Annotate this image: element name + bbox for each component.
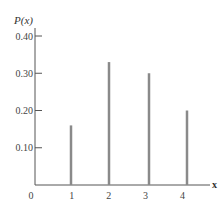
x-tick-label: 2 [106,190,111,201]
x-tick-label: 4 [180,190,185,201]
x-axis-label: x [212,179,217,190]
x-tick-label: 0 [29,190,34,201]
probability-stick-chart: 0.100.200.300.4001234P(x)x [0,0,222,201]
y-tick-label: 0.30 [16,68,34,79]
y-tick-label: 0.20 [16,105,34,116]
x-tick-label: 1 [69,190,74,201]
y-tick-label: 0.10 [16,142,34,153]
x-tick-label: 3 [143,190,148,201]
y-tick-label: 0.40 [16,31,34,42]
y-axis-label: P(x) [13,14,33,27]
